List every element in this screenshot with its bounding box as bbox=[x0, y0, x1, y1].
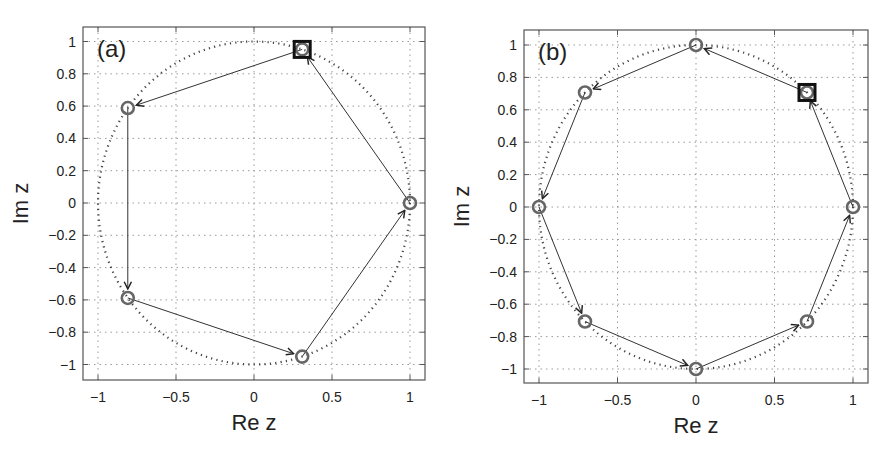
point-marker-circle bbox=[122, 292, 134, 304]
arrow bbox=[128, 298, 294, 354]
plot-panel-b: −1−0.500.5110.80.60.40.20−0.2−0.4−0.6−0.… bbox=[449, 30, 868, 438]
data-points bbox=[122, 41, 416, 362]
x-tick-label: 1 bbox=[406, 389, 414, 405]
y-tick-label: 1 bbox=[68, 34, 76, 50]
y-tick-label: −1 bbox=[501, 361, 517, 377]
arrow bbox=[585, 322, 688, 366]
arrow bbox=[704, 49, 807, 93]
arrow bbox=[593, 45, 696, 89]
y-tick-label: 1 bbox=[509, 37, 517, 53]
grid bbox=[524, 30, 868, 383]
y-tick-label: −0.4 bbox=[48, 260, 76, 276]
arrow bbox=[539, 207, 582, 313]
y-axis-label: Im z bbox=[8, 183, 33, 225]
x-tick-label: −1 bbox=[90, 389, 106, 405]
x-tick-label: 0 bbox=[692, 392, 700, 408]
plot-panel-a: −1−0.500.5110.80.60.40.20−0.2−0.4−0.6−0.… bbox=[8, 27, 425, 435]
arrow bbox=[302, 210, 405, 356]
figure: −1−0.500.5110.80.60.40.20−0.2−0.4−0.6−0.… bbox=[0, 0, 893, 459]
arrow-paths bbox=[128, 49, 410, 356]
y-tick-label: 0.2 bbox=[57, 163, 77, 179]
y-tick-label: −0.2 bbox=[489, 231, 517, 247]
x-axis-label: Re z bbox=[231, 410, 276, 435]
y-tick-label: 0 bbox=[509, 199, 517, 215]
y-tick-label: −0.4 bbox=[489, 264, 517, 280]
x-tick-label: −1 bbox=[531, 392, 547, 408]
y-tick-label: 0.6 bbox=[498, 102, 518, 118]
panel-label: (b) bbox=[538, 38, 567, 65]
x-tick-label: 0.5 bbox=[322, 389, 342, 405]
x-tick-label: 1 bbox=[849, 392, 857, 408]
arrow bbox=[136, 49, 302, 105]
y-tick-label: 0.2 bbox=[498, 167, 518, 183]
y-tick-label: −0.6 bbox=[489, 296, 517, 312]
y-tick-label: 0.4 bbox=[498, 134, 518, 150]
x-tick-label: −0.5 bbox=[162, 389, 190, 405]
y-tick-label: 0.8 bbox=[57, 66, 77, 82]
arrow bbox=[542, 92, 585, 198]
y-tick-label: −0.6 bbox=[48, 292, 76, 308]
y-tick-label: 0.6 bbox=[57, 98, 77, 114]
y-tick-label: 0.4 bbox=[57, 130, 77, 146]
arrow bbox=[807, 215, 850, 321]
arrow bbox=[810, 101, 853, 207]
y-tick-label: −0.8 bbox=[48, 324, 76, 340]
x-tick-label: 0.5 bbox=[765, 392, 785, 408]
y-tick-label: −0.2 bbox=[48, 227, 76, 243]
panel-label: (a) bbox=[97, 35, 126, 62]
y-tick-label: 0 bbox=[68, 195, 76, 211]
x-tick-label: −0.5 bbox=[604, 392, 632, 408]
x-tick-label: 0 bbox=[250, 389, 258, 405]
y-tick-label: −0.8 bbox=[489, 329, 517, 345]
x-axis-label: Re z bbox=[673, 413, 718, 438]
y-tick-label: 0.8 bbox=[498, 69, 518, 85]
grid bbox=[83, 27, 425, 380]
tick-labels: −1−0.500.5110.80.60.40.20−0.2−0.4−0.6−0.… bbox=[48, 27, 425, 405]
arrow bbox=[307, 57, 410, 203]
arrow bbox=[696, 325, 799, 369]
y-axis-label: Im z bbox=[449, 186, 474, 228]
y-tick-label: −1 bbox=[60, 357, 76, 373]
